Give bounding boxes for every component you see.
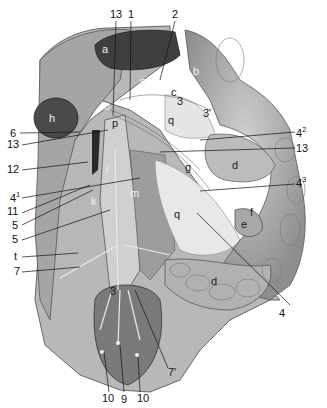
label-d-bottom: d: [211, 276, 217, 287]
label-f: f: [250, 207, 253, 218]
label-13-right: 13: [296, 143, 308, 154]
label-n: n: [140, 76, 146, 87]
label-i: i: [106, 164, 108, 175]
label-p: p: [112, 118, 118, 129]
label-13-top: 13: [110, 9, 122, 20]
label-e: e: [241, 219, 247, 230]
label-4: 4: [279, 308, 285, 319]
label-d-top: d: [232, 160, 238, 171]
label-b: b: [193, 66, 199, 77]
label-5-a: 5: [12, 220, 18, 231]
label-8: 8: [110, 286, 116, 297]
label-2: 2: [172, 9, 178, 20]
label-13-left: 13: [7, 139, 19, 150]
organ-e: [235, 209, 262, 237]
label-h: h: [49, 113, 55, 124]
label-11: 11: [7, 206, 18, 217]
label-3-prime: 3': [203, 108, 211, 119]
label-4-1: 41: [10, 191, 20, 204]
label-4-3: 43: [296, 176, 306, 189]
label-5-b: 5: [12, 234, 18, 245]
anatomical-illustration: [0, 0, 327, 408]
label-q-mid: q: [174, 209, 180, 220]
label-t: t: [14, 251, 17, 262]
label-q-top: q: [168, 115, 174, 126]
label-4-2: 42: [296, 126, 306, 139]
label-o: o: [104, 101, 110, 112]
label-12: 12: [7, 164, 19, 175]
label-7: 7: [14, 266, 20, 277]
label-g: g: [185, 162, 191, 173]
label-7-prime: 7': [168, 367, 176, 378]
label-c: c: [171, 87, 177, 98]
label-10-right: 10: [137, 393, 149, 404]
label-10-left: 10: [102, 393, 114, 404]
label-m: m: [130, 188, 139, 199]
label-a: a: [102, 44, 108, 55]
label-k: k: [91, 196, 97, 207]
label-1: 1: [128, 9, 134, 20]
label-3: 3: [177, 96, 183, 107]
label-9: 9: [121, 394, 127, 405]
